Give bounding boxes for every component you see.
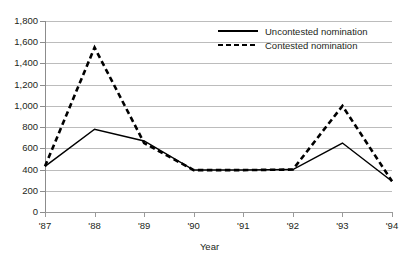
grid-line [45, 21, 392, 22]
chart-legend: Uncontested nomination Contested nominat… [218, 24, 367, 52]
y-tick-mark [40, 21, 45, 22]
grid-line [45, 212, 392, 213]
grid-line [45, 106, 392, 107]
y-tick-mark [40, 106, 45, 107]
line-chart: 1,8001,6001,4001,2001,0008006004002000 U… [0, 0, 419, 270]
y-tick-label: 1,800 [4, 16, 38, 26]
x-tick-mark [392, 212, 393, 217]
x-tick-mark [194, 212, 195, 217]
y-tick-mark [40, 63, 45, 64]
x-tick-label: '89 [124, 221, 164, 231]
y-tick-label: 400 [4, 165, 38, 175]
grid-line [45, 63, 392, 64]
legend-swatch-solid-icon [218, 26, 258, 36]
y-tick-label: 1,000 [4, 101, 38, 111]
y-tick-mark [40, 127, 45, 128]
grid-line [45, 127, 392, 128]
grid-line [45, 85, 392, 86]
x-tick-label: '93 [322, 221, 362, 231]
x-tick-label: '94 [372, 221, 412, 231]
x-tick-label: '91 [223, 221, 263, 231]
y-tick-label: 1,200 [4, 80, 38, 90]
legend-swatch-dashed-icon [218, 40, 258, 50]
y-tick-label: 0 [4, 207, 38, 217]
x-tick-mark [342, 212, 343, 217]
y-tick-label: 800 [4, 122, 38, 132]
x-tick-label: '87 [25, 221, 65, 231]
x-tick-mark [243, 212, 244, 217]
y-tick-mark [40, 42, 45, 43]
grid-line [45, 148, 392, 149]
legend-label-uncontested: Uncontested nomination [265, 26, 367, 37]
y-tick-label: 600 [4, 143, 38, 153]
y-tick-label: 1,600 [4, 37, 38, 47]
y-tick-mark [40, 170, 45, 171]
x-tick-label: '92 [273, 221, 313, 231]
grid-line [45, 170, 392, 171]
legend-item-uncontested: Uncontested nomination [218, 24, 367, 38]
legend-label-contested: Contested nomination [265, 40, 357, 51]
y-tick-label: 1,400 [4, 58, 38, 68]
y-tick-mark [40, 191, 45, 192]
y-axis-line [45, 21, 46, 213]
x-tick-label: '90 [174, 221, 214, 231]
x-tick-mark [293, 212, 294, 217]
x-tick-mark [95, 212, 96, 217]
x-axis-title: Year [0, 241, 419, 252]
legend-item-contested: Contested nomination [218, 38, 367, 52]
x-tick-mark [144, 212, 145, 217]
x-tick-mark [45, 212, 46, 217]
x-tick-label: '88 [75, 221, 115, 231]
y-tick-mark [40, 148, 45, 149]
y-tick-mark [40, 85, 45, 86]
y-tick-label: 200 [4, 186, 38, 196]
grid-line [45, 191, 392, 192]
